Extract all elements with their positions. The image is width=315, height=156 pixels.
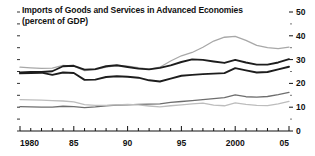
line-chart-plot: 01020304050 1980859095200005 — [0, 0, 315, 156]
y-tick-label: 0 — [296, 126, 301, 136]
x-tick-label: 2000 — [226, 138, 245, 148]
series-line-series-4-medium-gray-lower — [20, 92, 289, 107]
y-tick-label: 40 — [296, 31, 306, 41]
data-series-group — [20, 36, 289, 107]
series-line-series-1-light-gray-upper — [20, 36, 289, 70]
y-tick-label: 30 — [296, 55, 306, 65]
right-axis-ticks — [289, 12, 293, 131]
x-tick-label: 95 — [177, 138, 187, 148]
x-tick-label: 05 — [280, 138, 290, 148]
y-tick-label: 20 — [296, 78, 306, 88]
y-axis-labels: 01020304050 — [296, 7, 306, 136]
left-axis-ticks — [17, 12, 20, 131]
x-axis-labels: 1980859095200005 — [20, 138, 289, 148]
y-tick-label: 50 — [296, 7, 306, 17]
x-tick-label: 1980 — [20, 138, 39, 148]
chart-container: Imports of Goods and Services in Advance… — [0, 0, 315, 156]
y-tick-label: 10 — [296, 102, 306, 112]
x-tick-label: 85 — [69, 138, 79, 148]
x-tick-label: 90 — [123, 138, 133, 148]
x-axis-ticks — [20, 126, 289, 131]
